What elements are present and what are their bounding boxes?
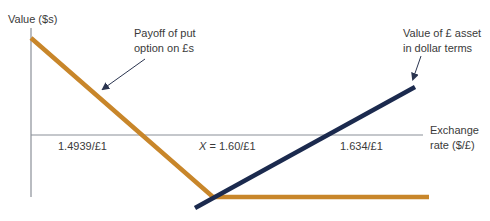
- put-payoff-line: [31, 38, 429, 197]
- y-axis-label: Value ($s): [8, 13, 57, 25]
- asset-annotation-line2: in dollar terms: [403, 42, 473, 54]
- put-annotation-line1: Payoff of put: [134, 27, 196, 39]
- x-axis-label-line1: Exchange: [430, 124, 479, 136]
- payoff-chart: Value ($s) Payoff of put option on £s Va…: [0, 0, 490, 221]
- tick-label-strike: X = 1.60/£1: [198, 140, 256, 152]
- put-annotation-arrow: [103, 59, 145, 89]
- asset-annotation-line1: Value of £ asset: [403, 27, 481, 39]
- asset-annotation-arrow: [413, 56, 421, 79]
- put-annotation-line2: option on £s: [134, 42, 194, 54]
- x-axis-label-line2: rate ($/£): [430, 139, 475, 151]
- tick-label-3: 1.634/£1: [340, 140, 383, 152]
- tick-label-1: 1.4939/£1: [58, 140, 107, 152]
